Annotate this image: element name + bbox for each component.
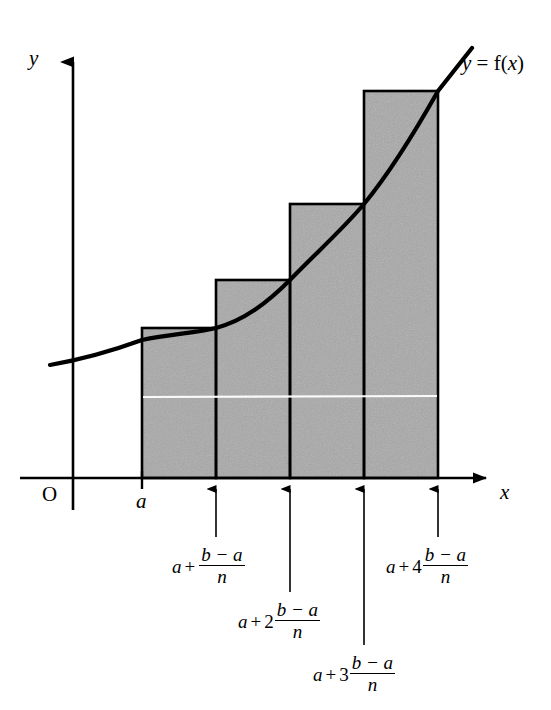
riemann-sum-figure: y x O a y = f(x) a+b − an a+2b − an a+3b… xyxy=(0,0,551,710)
division-2-denominator: n xyxy=(275,621,320,641)
division-4-base: a xyxy=(386,556,396,577)
division-4-fraction: b − an xyxy=(423,545,468,586)
division-1-numerator: b − a xyxy=(199,545,244,566)
division-3-operator: + xyxy=(323,664,340,685)
division-4-operator: + xyxy=(396,556,413,577)
division-3-coefficient: 3 xyxy=(339,664,349,685)
division-2-operator: + xyxy=(248,611,265,632)
curve-label-close-paren: ) xyxy=(517,51,524,75)
division-1-base: a xyxy=(172,556,182,577)
division-3-base: a xyxy=(313,664,323,685)
division-3-numerator: b − a xyxy=(350,653,395,674)
x-axis-label: x xyxy=(500,482,509,503)
curve-label-x: x xyxy=(508,51,517,75)
y-axis-label: y xyxy=(29,48,38,69)
division-2-fraction: b − an xyxy=(275,600,320,641)
curve-label-f: f xyxy=(494,51,501,75)
division-2-coefficient: 2 xyxy=(264,611,274,632)
division-1-fraction: b − an xyxy=(199,545,244,586)
division-3-fraction: b − an xyxy=(350,653,395,694)
division-2-numerator: b − a xyxy=(275,600,320,621)
riemann-rectangles xyxy=(142,91,438,478)
scan-line-artifact xyxy=(143,396,437,397)
division-4-numerator: b − a xyxy=(423,545,468,566)
division-4-coefficient: 4 xyxy=(412,556,422,577)
riemann-rectangle-1 xyxy=(142,328,216,478)
division-1-operator: + xyxy=(182,556,199,577)
division-label-x3: a+3b − an xyxy=(313,653,396,694)
division-3-denominator: n xyxy=(350,674,395,694)
origin-label: O xyxy=(42,484,57,505)
curve-label-y: y xyxy=(462,51,471,75)
division-4-denominator: n xyxy=(423,566,468,586)
division-1-denominator: n xyxy=(199,566,244,586)
division-2-base: a xyxy=(238,611,248,632)
curve-label-equals: = xyxy=(477,51,489,75)
partition-label-a: a xyxy=(136,491,147,512)
curve-equation-label: y = f(x) xyxy=(462,53,524,74)
division-label-x4: a+4b − an xyxy=(386,545,469,586)
curve-label-open-paren: ( xyxy=(501,51,508,75)
division-label-x1: a+b − an xyxy=(172,545,246,586)
division-label-x2: a+2b − an xyxy=(238,600,321,641)
